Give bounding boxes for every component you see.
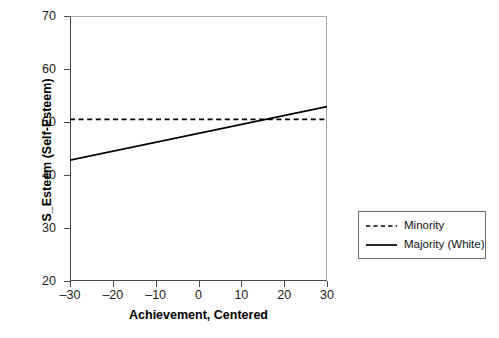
series-line-majority — [70, 107, 327, 161]
x-tick-label: –20 — [93, 289, 133, 302]
x-tick-mark — [156, 281, 157, 287]
data-lines — [70, 16, 327, 281]
legend-swatch-dashed — [366, 221, 397, 231]
x-tick-label: 30 — [307, 289, 347, 302]
x-axis-title: Achievement, Centered — [70, 308, 327, 322]
x-tick-label: –30 — [50, 289, 90, 302]
y-tick-mark — [64, 69, 70, 70]
legend-label-majority: Majority (White) — [404, 239, 485, 251]
x-tick-label: 20 — [264, 289, 304, 302]
x-tick-label: 0 — [179, 289, 219, 302]
legend-label-minority: Minority — [404, 220, 444, 232]
x-tick-mark — [327, 281, 328, 287]
y-axis-title: S_Esteem (Self-Esteem) — [40, 18, 54, 283]
x-tick-label: –10 — [136, 289, 176, 302]
y-tick-mark — [64, 122, 70, 123]
x-tick-mark — [241, 281, 242, 287]
legend-item-minority: Minority — [366, 218, 444, 234]
chart-legend: Minority Majority (White) — [358, 211, 486, 259]
chart-figure: 203040506070 –30–20–100102030 Achievemen… — [0, 0, 499, 338]
x-tick-mark — [70, 281, 71, 287]
y-tick-mark — [64, 16, 70, 17]
x-tick-mark — [113, 281, 114, 287]
legend-swatch-solid — [366, 240, 397, 250]
y-tick-mark — [64, 228, 70, 229]
x-tick-mark — [199, 281, 200, 287]
legend-item-majority: Majority (White) — [366, 237, 485, 253]
x-tick-label: 10 — [221, 289, 261, 302]
x-tick-mark — [284, 281, 285, 287]
y-tick-mark — [64, 175, 70, 176]
